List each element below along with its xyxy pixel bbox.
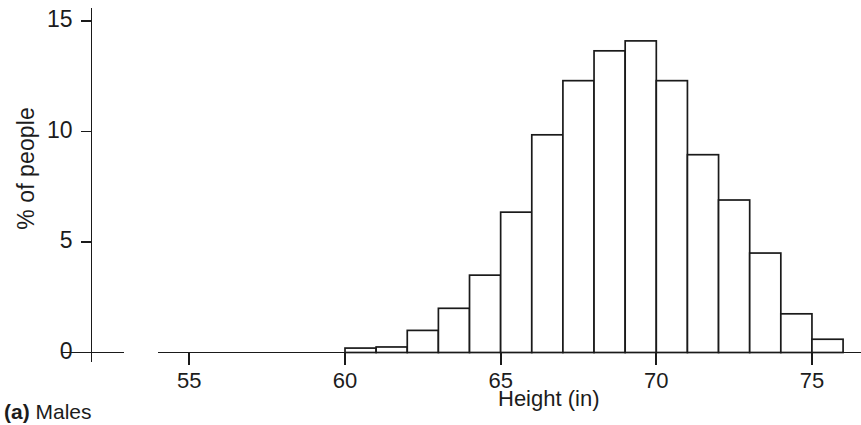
histogram-bar bbox=[750, 253, 781, 352]
histogram-bar bbox=[781, 314, 812, 353]
histogram-bar bbox=[563, 81, 594, 353]
histogram-plot bbox=[0, 0, 861, 425]
histogram-bar bbox=[687, 155, 718, 353]
histogram-bar bbox=[656, 81, 687, 353]
histogram-bar bbox=[501, 212, 532, 352]
histogram-bar bbox=[594, 51, 625, 353]
histogram-bars bbox=[345, 41, 843, 353]
histogram-bar bbox=[376, 347, 407, 353]
histogram-bar bbox=[407, 330, 438, 352]
histogram-bar bbox=[812, 339, 843, 352]
histogram-bar bbox=[470, 275, 501, 352]
histogram-bar bbox=[438, 308, 469, 352]
histogram-figure: % of people 0 5 10 15 55 60 65 70 75 Hei… bbox=[0, 0, 861, 425]
histogram-bar bbox=[345, 348, 376, 352]
histogram-bar bbox=[719, 200, 750, 352]
histogram-bar bbox=[625, 41, 656, 353]
histogram-bar bbox=[532, 135, 563, 353]
